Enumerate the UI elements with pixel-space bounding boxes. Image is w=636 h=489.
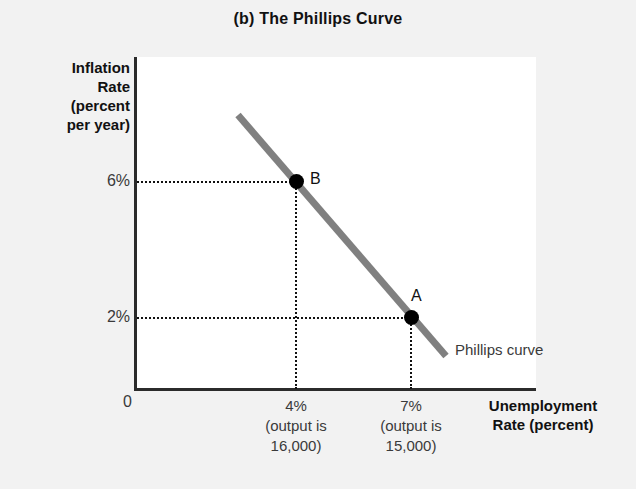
y-axis-title-line-3: (percent — [10, 96, 130, 115]
x-axis-title-line-1: Unemployment — [450, 396, 636, 415]
y-axis-line — [134, 57, 137, 391]
y-axis-title: Inflation Rate (percent per year) — [10, 58, 130, 134]
y-axis-title-line-2: Rate — [10, 77, 130, 96]
data-point-label-a: A — [411, 287, 422, 305]
guide-line-horizontal-b — [137, 181, 295, 183]
data-point-a[interactable] — [404, 310, 419, 325]
y-axis-title-line-1: Inflation — [10, 58, 130, 77]
x-tick-label-7-value: 7% — [351, 396, 471, 416]
y-tick-label-2: 2% — [70, 308, 130, 326]
data-point-b[interactable] — [289, 174, 304, 189]
x-tick-label-7-sub-2: 15,000) — [351, 436, 471, 456]
phillips-curve-annotation: Phillips curve — [455, 341, 543, 358]
x-axis-title-line-2: Rate (percent) — [450, 415, 636, 434]
x-tick-label-4-sub-2: 16,000) — [236, 436, 356, 456]
data-point-label-b: B — [310, 170, 321, 188]
guide-line-vertical-b — [295, 181, 297, 389]
x-axis-line — [134, 388, 536, 391]
x-tick-label-7-sub-1: (output is — [351, 416, 471, 436]
y-axis-title-line-4: per year) — [10, 115, 130, 134]
x-tick-label-4: 4% (output is 16,000) — [236, 396, 356, 456]
x-tick-label-4-sub-1: (output is — [236, 416, 356, 436]
x-tick-label-4-value: 4% — [236, 396, 356, 416]
y-tick-label-6: 6% — [70, 172, 130, 190]
chart-title: (b) The Phillips Curve — [0, 10, 636, 28]
x-tick-label-7: 7% (output is 15,000) — [351, 396, 471, 456]
plot-area — [137, 57, 536, 388]
guide-line-horizontal-a — [137, 317, 411, 319]
x-axis-title: Unemployment Rate (percent) — [450, 396, 636, 434]
origin-label: 0 — [92, 393, 132, 411]
phillips-curve-figure: (b) The Phillips Curve Inflation Rate (p… — [0, 0, 636, 489]
guide-line-vertical-a — [410, 317, 412, 389]
